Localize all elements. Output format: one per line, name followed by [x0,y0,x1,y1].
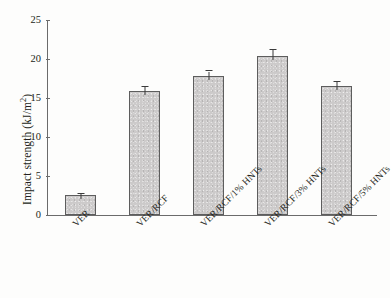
y-tick-label-20: 20 [31,52,42,65]
bar-ver-rcf-5-hnts[interactable] [321,86,352,215]
y-axis-line [47,20,48,216]
error-bar-ver-rcf [144,87,145,95]
y-tick-label-25: 25 [31,13,42,26]
error-bar-ver-rcf-3-hnts [272,50,273,59]
y-tick-10: 10 [46,137,50,138]
y-tick-25: 25 [46,20,50,21]
error-bar-cap-top-ver-rcf [141,86,148,87]
error-bar-ver [80,194,81,199]
y-axis-title-exponent: 2 [19,98,28,102]
error-bar-cap-top-ver-rcf-3-hnts [269,49,276,50]
bar-ver-rcf-3-hnts[interactable] [257,56,288,215]
y-tick-0: 0 [46,215,50,216]
y-tick-label-0: 0 [36,208,41,221]
bar-group [65,20,96,215]
error-bar-cap-top-ver [77,193,84,194]
bar-group [129,20,160,215]
y-tick-label-10: 10 [31,130,42,143]
bar-group [193,20,224,215]
error-bar-cap-top-ver-rcf-5-hnts [333,81,340,82]
bar-group [257,20,288,215]
y-tick-15: 15 [46,98,50,99]
error-bar-cap-top-ver-rcf-1-hnts [205,70,212,71]
y-tick-5: 5 [46,176,50,177]
y-axis-title-main: Impact strength (kJ/m [21,102,33,205]
error-bar-ver-rcf-1-hnts [208,72,209,81]
y-tick-label-15: 15 [31,91,42,104]
bar-ver-rcf[interactable] [129,91,160,215]
y-tick-label-5: 5 [36,169,41,182]
plot-area: 0 5 10 15 20 25 [47,20,377,215]
bar-ver-rcf-1-hnts[interactable] [193,76,224,215]
bar-group [321,20,352,215]
error-bar-ver-rcf-5-hnts [336,82,337,90]
y-axis-title: Impact strength (kJ/m2) [21,5,37,205]
y-tick-20: 20 [46,59,50,60]
